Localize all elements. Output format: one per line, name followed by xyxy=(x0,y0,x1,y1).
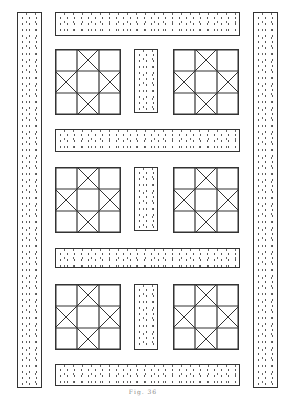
star-block-r2-c1 xyxy=(55,167,121,233)
star-block-r2-c2 xyxy=(173,167,239,233)
sashing-strip-top xyxy=(55,12,240,36)
star-block-r3-c1 xyxy=(55,284,121,350)
sashing-strip-2 xyxy=(55,129,240,152)
sashing-strip-bottom xyxy=(55,364,240,386)
star-block-r1-c1 xyxy=(55,49,121,115)
star-block-r3-c2 xyxy=(173,284,239,350)
figure-caption: Fig. 36 xyxy=(0,388,286,395)
center-strip-row2 xyxy=(134,167,158,231)
center-strip-row3 xyxy=(134,284,158,350)
center-strip-row1 xyxy=(134,49,158,113)
star-block-r1-c2 xyxy=(173,49,239,115)
sashing-strip-3 xyxy=(55,248,240,268)
right-border-strip xyxy=(253,12,278,388)
left-border-strip xyxy=(17,12,42,388)
